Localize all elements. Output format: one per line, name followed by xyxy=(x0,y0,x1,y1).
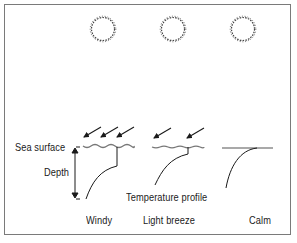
wind-arrows-light-breeze xyxy=(154,128,204,138)
panel-label-calm: Calm xyxy=(249,214,271,226)
sea-surface-label: Sea surface xyxy=(15,141,65,153)
wind-arrows-windy xyxy=(84,127,134,137)
wave-surface-light-breeze xyxy=(152,146,204,148)
temperature-profile-light-breeze xyxy=(155,147,188,185)
panel-label-windy: Windy xyxy=(86,214,112,226)
sun-icon-light-breeze xyxy=(160,16,186,42)
temperature-profile-label: Temperature profile xyxy=(126,191,207,203)
depth-label: Depth xyxy=(44,166,69,178)
wave-surface-windy xyxy=(83,145,134,148)
temperature-profile-windy xyxy=(86,147,117,199)
sun-icon-calm xyxy=(230,16,256,42)
depth-axis xyxy=(72,147,80,199)
temperature-profile-calm xyxy=(226,148,257,188)
sun-icon-windy xyxy=(90,16,116,42)
panel-label-light-breeze: Light breeze xyxy=(143,214,195,226)
diagram-graphics xyxy=(0,0,297,243)
